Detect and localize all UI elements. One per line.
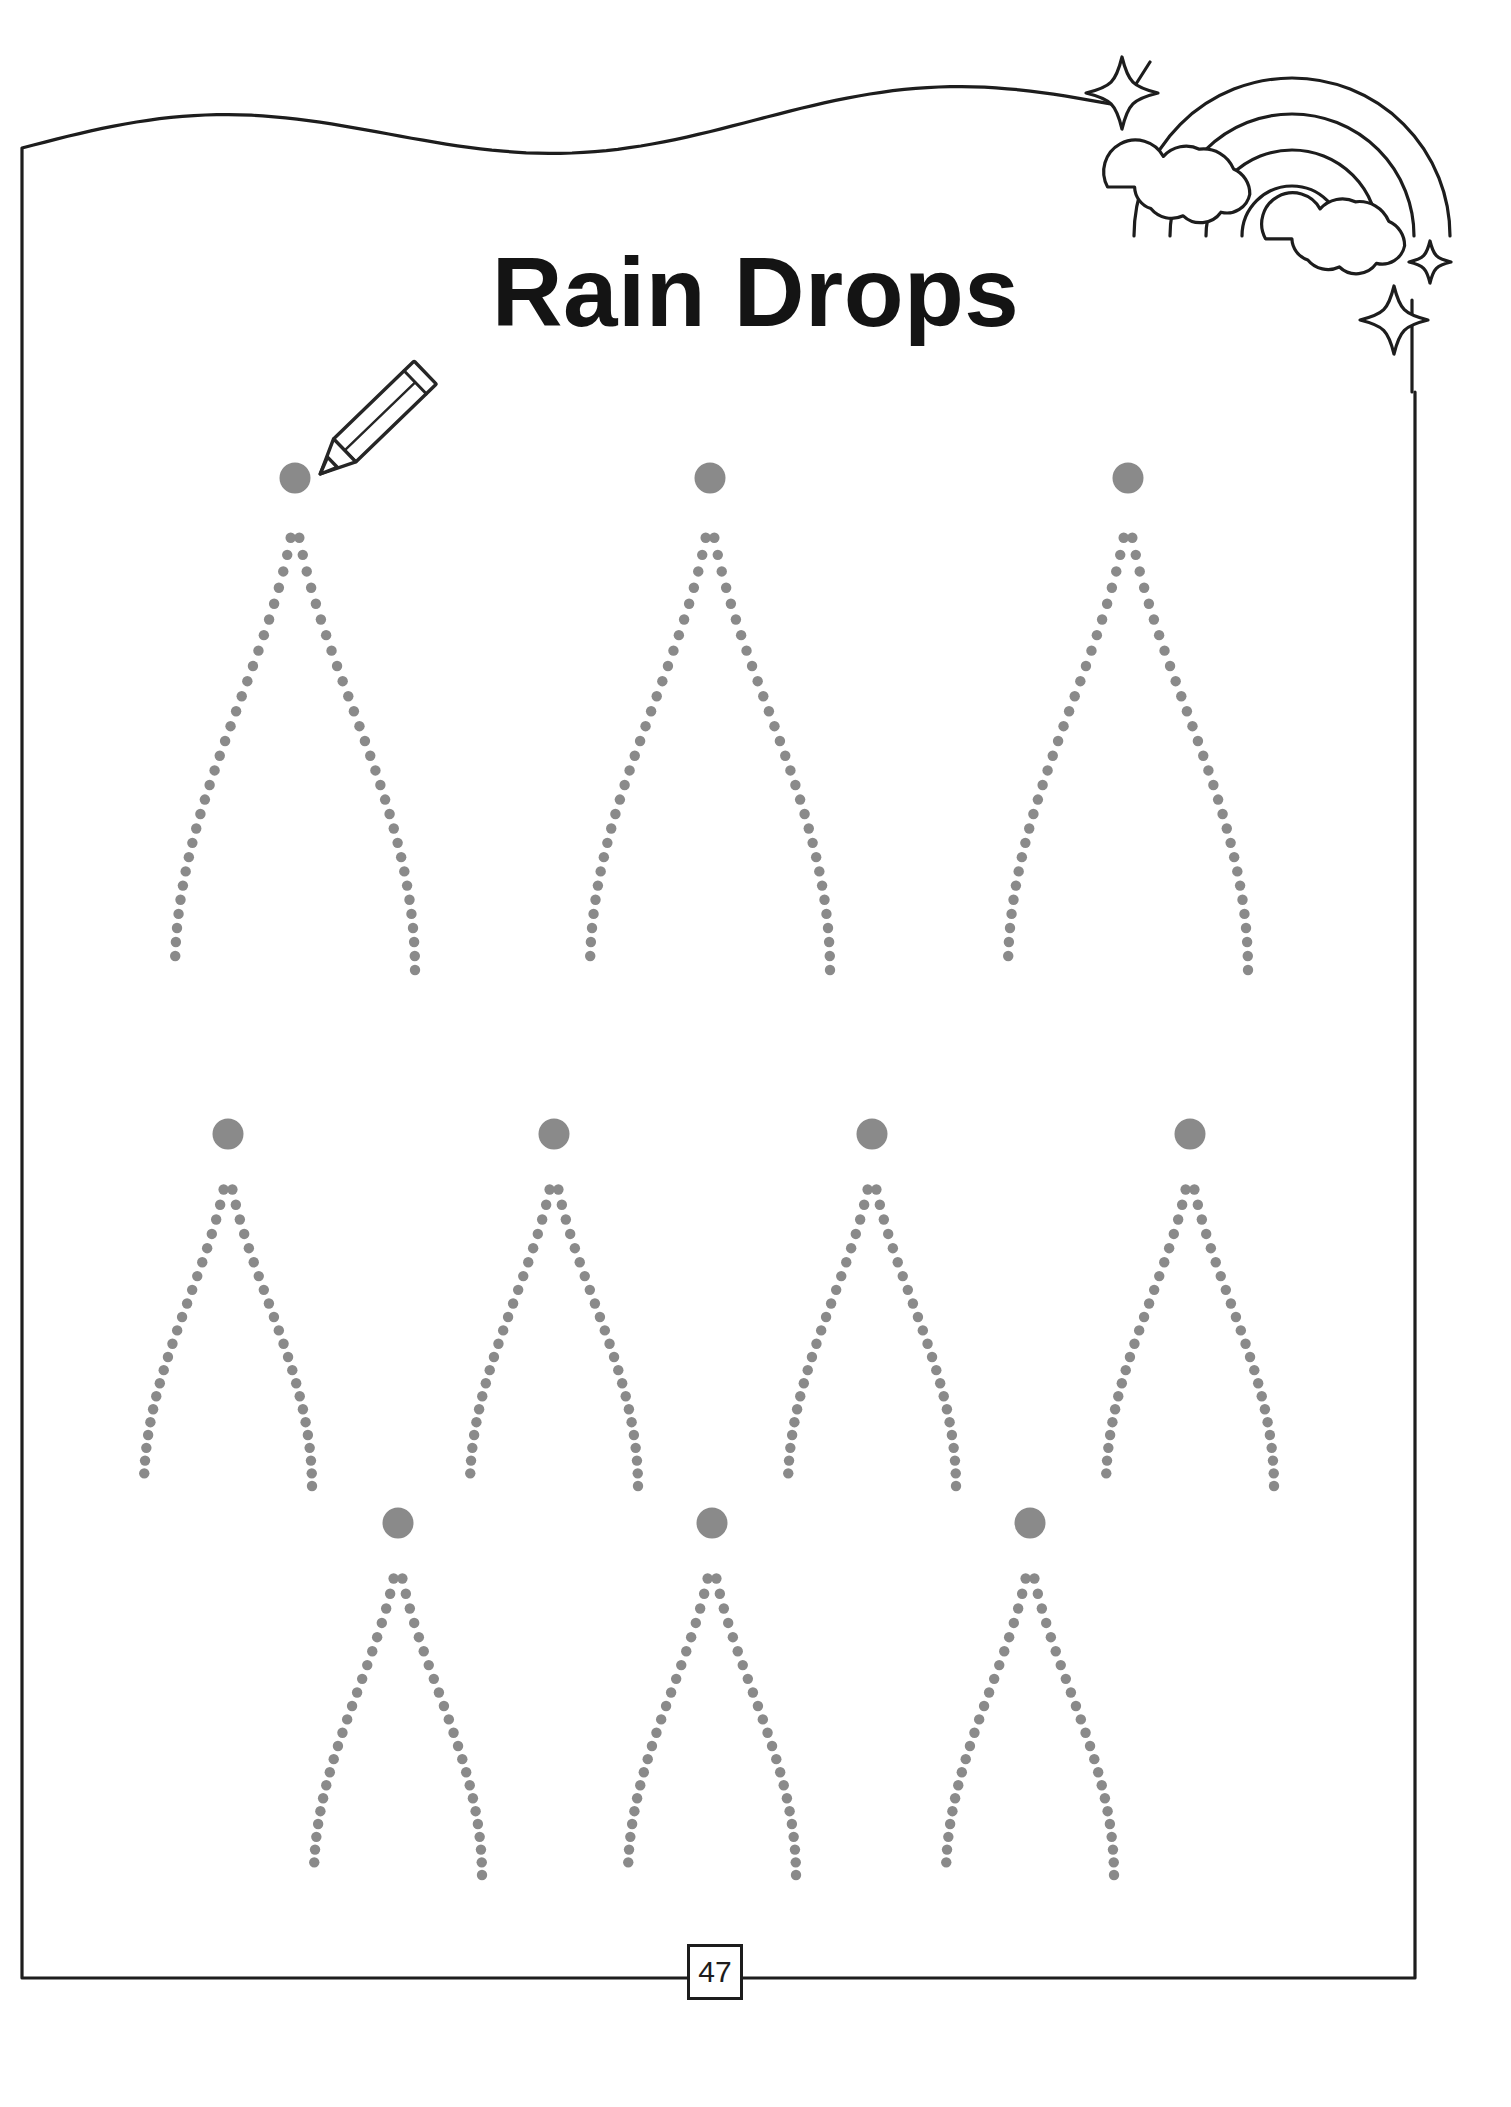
trace-dot bbox=[570, 1243, 580, 1253]
trace-dot bbox=[950, 1793, 960, 1803]
trace-dot bbox=[780, 751, 790, 761]
trace-dot bbox=[1081, 661, 1091, 671]
trace-dot bbox=[671, 1674, 681, 1684]
trace-dot bbox=[647, 1741, 657, 1751]
trace-dot bbox=[248, 661, 258, 671]
trace-dot bbox=[747, 661, 757, 671]
trace-dot bbox=[1109, 1857, 1119, 1867]
trace-dot bbox=[533, 1229, 543, 1239]
trace-dot bbox=[1134, 1325, 1144, 1335]
trace-dot bbox=[303, 1430, 313, 1440]
trace-dot bbox=[790, 780, 800, 790]
trace-dot bbox=[381, 1603, 391, 1613]
trace-dot bbox=[821, 1312, 831, 1322]
trace-dot bbox=[1241, 923, 1251, 933]
trace-dot bbox=[1262, 1417, 1272, 1427]
trace-dot bbox=[719, 1603, 729, 1613]
trace-dot bbox=[278, 1339, 288, 1349]
trace-dot bbox=[1020, 1573, 1030, 1583]
trace-dot bbox=[1144, 599, 1154, 609]
rain-drop-medium-drop-5 bbox=[465, 1119, 643, 1492]
trace-dot bbox=[362, 1660, 372, 1670]
trace-dot bbox=[580, 1271, 590, 1281]
trace-dot bbox=[965, 1741, 975, 1751]
trace-dot bbox=[593, 880, 603, 890]
trace-dot bbox=[140, 1455, 150, 1465]
trace-dot bbox=[957, 1767, 967, 1777]
trace-dot bbox=[309, 1857, 319, 1867]
trace-dot bbox=[1106, 1832, 1116, 1842]
trace-dot bbox=[1237, 895, 1247, 905]
trace-dot bbox=[151, 1391, 161, 1401]
trace-dot bbox=[769, 721, 779, 731]
trace-dot bbox=[541, 1200, 551, 1210]
trace-dot bbox=[1033, 1589, 1043, 1599]
trace-dot bbox=[888, 1243, 898, 1253]
trace-dot bbox=[1203, 765, 1213, 775]
trace-dot bbox=[493, 1339, 503, 1349]
trace-dot bbox=[775, 1767, 785, 1777]
trace-dot bbox=[817, 880, 827, 890]
rain-drop-large-drop-2 bbox=[585, 463, 835, 976]
trace-dot bbox=[285, 533, 295, 543]
trace-dot bbox=[788, 1832, 798, 1842]
trace-dot bbox=[602, 838, 612, 848]
trace-dot bbox=[302, 566, 312, 576]
trace-dot bbox=[1177, 1200, 1187, 1210]
trace-dot bbox=[1017, 1589, 1027, 1599]
trace-dot bbox=[200, 794, 210, 804]
trace-dot bbox=[145, 1417, 155, 1427]
trace-dot bbox=[406, 909, 416, 919]
trace-dot bbox=[999, 1646, 1009, 1656]
trace-dot bbox=[1180, 1184, 1190, 1194]
rain-drop-large-drop-3 bbox=[1003, 463, 1253, 976]
trace-dot bbox=[307, 1481, 317, 1491]
trace-dot bbox=[1115, 550, 1125, 560]
trace-dot bbox=[588, 909, 598, 919]
trace-dot bbox=[748, 1687, 758, 1697]
trace-dot bbox=[1129, 1339, 1139, 1349]
trace-dot bbox=[332, 661, 342, 671]
trace-dot bbox=[1108, 1844, 1118, 1854]
trace-dot bbox=[903, 1285, 913, 1295]
trace-dot bbox=[414, 1632, 424, 1642]
trace-dot bbox=[1097, 1780, 1107, 1790]
trace-dot bbox=[1118, 533, 1128, 543]
trace-dot bbox=[468, 1793, 478, 1803]
trace-dot bbox=[471, 1417, 481, 1427]
trace-dot bbox=[789, 1417, 799, 1427]
trace-dot bbox=[626, 1417, 636, 1427]
trace-dot bbox=[1213, 794, 1223, 804]
trace-dot bbox=[1017, 852, 1027, 862]
trace-dot bbox=[329, 1754, 339, 1764]
trace-dot bbox=[846, 1243, 856, 1253]
trace-dot bbox=[646, 706, 656, 716]
trace-dot bbox=[1011, 880, 1021, 890]
trace-dot bbox=[298, 550, 308, 560]
trace-dot bbox=[1229, 852, 1239, 862]
trace-dot bbox=[595, 1312, 605, 1322]
trace-dot bbox=[792, 1404, 802, 1414]
trace-dot bbox=[1046, 1632, 1056, 1642]
trace-dot bbox=[1135, 566, 1145, 576]
trace-dot bbox=[615, 794, 625, 804]
trace-dot bbox=[274, 1325, 284, 1335]
trace-dot bbox=[1042, 765, 1052, 775]
trace-dot bbox=[1006, 909, 1016, 919]
trace-dot bbox=[1170, 676, 1180, 686]
trace-dot bbox=[741, 645, 751, 655]
trace-dot bbox=[762, 1728, 772, 1738]
trace-dot bbox=[291, 1378, 301, 1388]
trace-dot bbox=[586, 937, 596, 947]
trace-dot bbox=[595, 866, 605, 876]
trace-dot bbox=[590, 1298, 600, 1308]
trace-dot bbox=[385, 1589, 395, 1599]
trace-dot bbox=[1154, 1271, 1164, 1281]
trace-dot bbox=[974, 1714, 984, 1724]
trace-dot bbox=[606, 823, 616, 833]
trace-dot bbox=[951, 1468, 961, 1478]
trace-dot bbox=[1102, 599, 1112, 609]
trace-dot bbox=[326, 645, 336, 655]
trace-dot bbox=[172, 1325, 182, 1335]
trace-dot bbox=[473, 1819, 483, 1829]
